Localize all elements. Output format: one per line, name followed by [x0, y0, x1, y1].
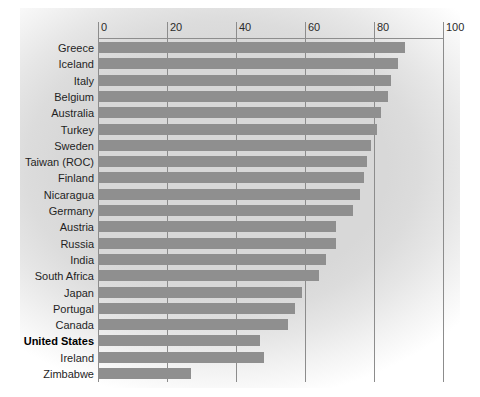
category-label-finland: Finland — [0, 171, 94, 185]
category-label-austria: Austria — [0, 220, 94, 234]
chart-row: South Africa — [0, 268, 480, 284]
bar-south-africa — [98, 270, 319, 281]
category-label-south-africa: South Africa — [0, 269, 94, 283]
category-label-italy: Italy — [0, 74, 94, 88]
chart-row: Ireland — [0, 350, 480, 366]
category-label-belgium: Belgium — [0, 90, 94, 104]
category-label-australia: Australia — [0, 106, 94, 120]
chart-row: Nicaragua — [0, 187, 480, 203]
chart-row: Germany — [0, 203, 480, 219]
bar-iceland — [98, 58, 398, 69]
category-label-united-states: United States — [0, 334, 94, 348]
category-label-sweden: Sweden — [0, 139, 94, 153]
bar-nicaragua — [98, 189, 360, 200]
chart-row: Finland — [0, 170, 480, 186]
plot-area: GreeceIcelandItalyBelgiumAustraliaTurkey… — [0, 0, 480, 360]
bar-united-states — [98, 335, 260, 346]
chart-row: Australia — [0, 105, 480, 121]
bar-sweden — [98, 140, 371, 151]
category-label-zimbabwe: Zimbabwe — [0, 367, 94, 381]
bar-chart: 020406080100 GreeceIcelandItalyBelgiumAu… — [0, 0, 480, 397]
chart-row: Japan — [0, 285, 480, 301]
category-label-portugal: Portugal — [0, 302, 94, 316]
bar-germany — [98, 205, 353, 216]
bar-canada — [98, 319, 288, 330]
chart-row: Portugal — [0, 301, 480, 317]
chart-row: Russia — [0, 236, 480, 252]
bar-portugal — [98, 303, 295, 314]
category-label-ireland: Ireland — [0, 351, 94, 365]
bar-japan — [98, 287, 302, 298]
chart-row: Belgium — [0, 89, 480, 105]
category-label-nicaragua: Nicaragua — [0, 188, 94, 202]
bar-australia — [98, 107, 381, 118]
bar-italy — [98, 75, 391, 86]
category-label-iceland: Iceland — [0, 57, 94, 71]
category-label-india: India — [0, 253, 94, 267]
chart-row: Italy — [0, 73, 480, 89]
category-label-greece: Greece — [0, 41, 94, 55]
bar-taiwan-roc — [98, 156, 367, 167]
chart-row: Zimbabwe — [0, 366, 480, 382]
bar-zimbabwe — [98, 368, 191, 379]
category-label-russia: Russia — [0, 237, 94, 251]
bar-finland — [98, 172, 364, 183]
bar-greece — [98, 42, 405, 53]
category-label-japan: Japan — [0, 286, 94, 300]
bar-ireland — [98, 352, 264, 363]
category-label-germany: Germany — [0, 204, 94, 218]
category-label-canada: Canada — [0, 318, 94, 332]
chart-row: Greece — [0, 40, 480, 56]
chart-row: Turkey — [0, 122, 480, 138]
bar-belgium — [98, 91, 388, 102]
chart-row: Canada — [0, 317, 480, 333]
category-label-taiwan-roc: Taiwan (ROC) — [0, 155, 94, 169]
chart-row: United States — [0, 333, 480, 349]
bar-turkey — [98, 124, 377, 135]
chart-row: Sweden — [0, 138, 480, 154]
chart-row: Austria — [0, 219, 480, 235]
bar-austria — [98, 221, 336, 232]
category-label-turkey: Turkey — [0, 123, 94, 137]
bar-india — [98, 254, 326, 265]
chart-row: Iceland — [0, 56, 480, 72]
chart-row: Taiwan (ROC) — [0, 154, 480, 170]
chart-row: India — [0, 252, 480, 268]
bar-russia — [98, 238, 336, 249]
